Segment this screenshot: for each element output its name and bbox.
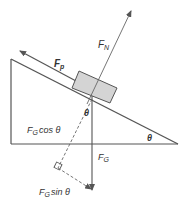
gravity-parallel-label: FGsin θ (39, 187, 70, 198)
incline-angle-label: θ (147, 133, 152, 143)
gravity-perp-label: FGcos θ (27, 125, 60, 136)
inclined-plane-diagram: FN Fp θ θ FGcos θ FG FGsin θ (0, 0, 188, 206)
block-angle-label: θ (84, 108, 89, 118)
normal-force-label: FN (98, 39, 110, 51)
pulling-force-arrow (20, 51, 76, 81)
gravity-parallel-arrow (58, 168, 91, 189)
gravity-label: FG (98, 152, 110, 163)
pulling-force-label: Fp (54, 58, 65, 71)
block (72, 71, 117, 103)
